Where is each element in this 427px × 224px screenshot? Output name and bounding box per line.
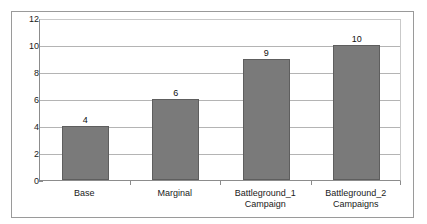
y-axis-tick-label: 10 [9,42,39,51]
bar-value-label: 6 [156,88,196,98]
y-axis-tick-label: 4 [9,123,39,132]
y-axis-tick-label: 6 [9,96,39,105]
x-axis-tick-mark [130,181,131,185]
y-axis-tick-label: 0 [9,177,39,186]
x-axis-tick-label-line: Campaign [220,199,311,210]
x-axis-tick-label: Battleground_2Campaigns [311,188,402,210]
y-axis-tick-label: 2 [9,150,39,159]
x-axis-tick-label: Marginal [130,188,221,199]
x-axis-tick-label-line: Battleground_1 [220,188,311,199]
x-axis-tick-marks [39,181,401,186]
bar-value-label: 9 [246,48,286,58]
x-axis-tick-mark [311,181,312,185]
chart-frame: 024681012 46910 BaseMarginalBattleground… [11,11,414,218]
x-axis-tick-labels: BaseMarginalBattleground_1CampaignBattle… [39,188,401,218]
y-axis-tick-labels: 024681012 [12,19,39,181]
x-axis-tick-label: Base [39,188,130,199]
bar [333,45,380,180]
x-axis-tick-label-line: Base [39,188,130,199]
bar [243,59,290,181]
gridline [40,19,400,20]
bar-value-label: 10 [337,34,377,44]
x-axis-tick-label-line: Marginal [130,188,221,199]
bar-value-label: 4 [65,115,105,125]
x-axis-tick-label-line: Campaigns [311,199,402,210]
x-axis-tick-label: Battleground_1Campaign [220,188,311,210]
x-axis-tick-label-line: Battleground_2 [311,188,402,199]
plot-area: 46910 [39,19,401,181]
x-axis-tick-mark [220,181,221,185]
y-axis-tick-label: 8 [9,69,39,78]
y-axis-tick-label: 12 [9,15,39,24]
bar [152,99,199,180]
bar [62,126,109,180]
x-axis-tick-mark [400,181,401,185]
